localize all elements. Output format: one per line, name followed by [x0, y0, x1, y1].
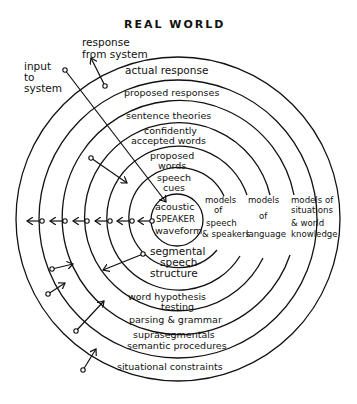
label-suprasegmentals: suprasegmentals [133, 329, 215, 340]
label-semantic-procedures: semantic procedures [127, 340, 227, 351]
node [89, 156, 93, 160]
label-words: words [158, 160, 186, 171]
label-testing: testing [161, 301, 194, 312]
models-language-3: language [246, 229, 286, 239]
node [40, 219, 44, 223]
models-world-1: models of [291, 195, 334, 205]
label-situational-constraints: situational constraints [117, 361, 223, 372]
label-structure: structure [150, 267, 198, 279]
input-node [63, 68, 67, 72]
models-speech-4: & speakers [202, 229, 250, 239]
center-waveform: waveform [155, 225, 202, 236]
label-input-3: system [24, 82, 62, 94]
models-world-2: situations [291, 205, 333, 215]
outward-arrow-1 [52, 264, 73, 269]
label-parsing-grammar: parsing & grammar [129, 314, 222, 325]
models-language-1: models [248, 195, 280, 205]
center-speaker: SPEAKER [156, 214, 195, 224]
speech-understanding-ring-diagram: REAL WORLD actual response proposed resp… [0, 0, 357, 404]
response-arrow [91, 58, 105, 86]
label-response-2: from system [82, 48, 148, 60]
title-real-world: REAL WORLD [124, 18, 225, 31]
models-speech-2: of [214, 205, 223, 215]
node [130, 219, 134, 223]
node [63, 219, 67, 223]
node [46, 292, 50, 296]
label-cues: cues [163, 182, 185, 193]
node [141, 252, 145, 256]
node [74, 329, 78, 333]
models-speech-3: speech [206, 218, 237, 228]
response-node [103, 84, 107, 88]
label-actual-response: actual response [125, 64, 208, 76]
models-world-4: knowledge [291, 229, 338, 239]
node [50, 267, 54, 271]
node [81, 368, 85, 372]
models-world-3: & world [291, 218, 324, 228]
models-language-2: of [259, 211, 268, 221]
outward-arrow-2 [48, 283, 65, 294]
inward-arrow-lower [103, 254, 143, 270]
label-response-1: response [82, 36, 130, 48]
center-acoustic: acoustic [155, 201, 194, 212]
models-speech-1: models [205, 195, 237, 205]
node [108, 219, 112, 223]
label-proposed-responses: proposed responses [124, 87, 219, 98]
label-accepted-words: accepted words [131, 135, 206, 146]
node [150, 219, 154, 223]
node [85, 219, 89, 223]
label-sentence-theories: sentence theories [126, 110, 211, 121]
